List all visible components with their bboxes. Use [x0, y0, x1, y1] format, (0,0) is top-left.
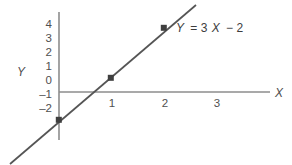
x-tick-label-2: 2	[162, 97, 168, 109]
y-tick-label-1: 1	[46, 60, 52, 72]
y-tick-label-2: 2	[46, 46, 52, 58]
equation-tail: − 2	[226, 21, 243, 35]
equation-x-symbol: X	[211, 21, 221, 35]
x-tick-label-1: 1	[109, 97, 115, 109]
x-tick-label-3: 3	[214, 97, 220, 109]
equation-annotation: Y = 3 X − 2	[176, 21, 243, 35]
equation-y-symbol: Y	[176, 21, 185, 35]
data-line-y-equals-3x-minus-2	[10, 5, 196, 164]
y-tick-label-0: 0	[46, 74, 52, 86]
x-axis-label: X	[274, 86, 284, 100]
data-point-marker	[56, 117, 62, 123]
y-tick-label-3: 3	[46, 32, 52, 44]
equation-equals-coeff: = 3	[190, 21, 207, 35]
line-chart-figure: 4 3 2 1 0 –1 –2 1 2 3 Y X Y = 3 X − 2	[0, 0, 292, 165]
y-tick-label-minus-2: –2	[39, 102, 52, 114]
y-tick-label-minus-1: –1	[39, 88, 52, 100]
data-point-marker	[108, 75, 114, 81]
y-axis-label: Y	[17, 65, 26, 79]
data-point-marker	[161, 25, 167, 31]
chart-canvas: 4 3 2 1 0 –1 –2 1 2 3 Y X Y = 3 X − 2	[0, 0, 292, 165]
y-tick-label-4: 4	[46, 18, 53, 30]
